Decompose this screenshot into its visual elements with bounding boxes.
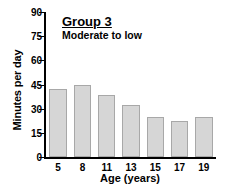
bar — [98, 95, 115, 157]
y-tick-label: 0 — [36, 152, 42, 163]
bar — [195, 117, 212, 157]
bar — [147, 117, 164, 157]
chart-subtitle: Moderate to low — [62, 29, 142, 42]
bar-chart: Minutes per day 0153045607590 5811131517… — [0, 0, 226, 192]
y-tick-label: 45 — [31, 79, 42, 90]
chart-annotations: Group 3 Moderate to low — [62, 14, 142, 42]
y-tick-label: 75 — [31, 31, 42, 42]
bar — [171, 121, 188, 157]
y-axis-title: Minutes per day — [11, 25, 23, 155]
bar — [122, 105, 139, 157]
x-axis-title: Age (years) — [44, 172, 216, 184]
y-tick-label: 90 — [31, 7, 42, 18]
x-axis-line — [44, 157, 216, 159]
y-tick-label: 30 — [31, 103, 42, 114]
bar — [74, 85, 91, 158]
y-tick-label: 15 — [31, 127, 42, 138]
chart-title: Group 3 — [62, 14, 142, 29]
y-tick-label: 60 — [31, 55, 42, 66]
bar — [49, 89, 66, 157]
